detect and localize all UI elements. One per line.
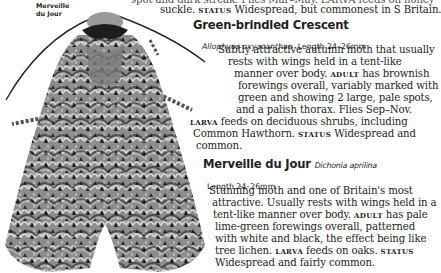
text-line: Subtly attractive autumn moth that usual… — [218, 44, 435, 56]
scientific-name: Dichonia aprilina — [315, 161, 377, 170]
text-line: rests with wings held in a tent-like — [228, 56, 402, 68]
text-line: Stunning moth and one of Britain's most — [209, 185, 413, 197]
text-line: tree lichen. LARVA feeds on oaks. STATUS — [215, 245, 414, 257]
text-line: manner over body. ADULT has brownish — [234, 68, 429, 80]
prev-entry-status-line: suckle. STATUS Widespread, but commonest… — [160, 4, 441, 16]
moth-illustration — [0, 0, 215, 273]
text-line: green and showing 2 large, pale spots, — [238, 92, 433, 104]
text-line: forewings overall, variably marked with — [238, 80, 438, 92]
text-line: Common Hawthorn. STATUS Widespread and — [193, 128, 416, 140]
text-line: attractive. Usually rests with wings hel… — [212, 197, 436, 209]
text-line: tent-like manner over body. ADULT has pa… — [213, 209, 428, 221]
text-line: LARVA feeds on deciduous shrubs, includi… — [190, 116, 408, 128]
text-line: and a palish thorax. Flies Sep–Nov. — [236, 104, 412, 116]
entry-title-merveille-du-jour: Merveille du Jour Dichonia aprilina — [203, 157, 377, 171]
entry-title-green-brindled-crescent: Green-brindled Crescent — [193, 18, 349, 32]
illustration-caption: Merveille du Jour — [36, 2, 76, 18]
text-line: Widespread and fairly common. — [215, 257, 375, 269]
text-line: common. — [196, 140, 242, 152]
text-line: with white and black, the effect being l… — [215, 233, 426, 245]
text-line: lime-green forewings overall, patterned — [215, 221, 415, 233]
